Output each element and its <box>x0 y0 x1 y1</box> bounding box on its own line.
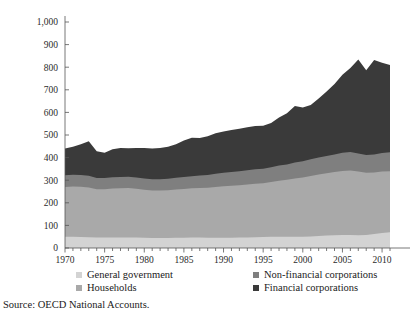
y-tick-label: 800 <box>44 63 59 73</box>
legend-swatch-general-government <box>76 272 82 278</box>
stacked-area-chart: 01002003004005006007008009001,000 197019… <box>0 0 415 270</box>
y-tick-label: 400 <box>44 153 59 163</box>
chart-legend: General government Households Non-financ… <box>0 268 415 298</box>
x-axis-ticks <box>65 248 390 253</box>
legend-item-households: Households <box>76 281 173 294</box>
y-tick-label: 700 <box>44 85 59 95</box>
legend-item-non-financial-corporations: Non-financial corporations <box>253 268 377 281</box>
x-tick-label: 1975 <box>95 255 114 265</box>
y-tick-label: 500 <box>44 130 59 140</box>
y-tick-label: 100 <box>44 221 59 231</box>
legend-swatch-households <box>76 285 82 291</box>
y-tick-label: 0 <box>53 243 58 253</box>
legend-column-left: General government Households <box>76 268 173 294</box>
x-tick-label: 1985 <box>174 255 193 265</box>
x-tick-label: 1990 <box>214 255 233 265</box>
x-tick-label: 2005 <box>333 255 352 265</box>
figure-container: 01002003004005006007008009001,000 197019… <box>0 0 415 321</box>
x-tick-label: 1970 <box>56 255 75 265</box>
source-note: Source: OECD National Accounts. <box>3 299 149 310</box>
legend-label-non-financial-corporations: Non-financial corporations <box>264 268 377 281</box>
x-tick-label: 1980 <box>135 255 154 265</box>
legend-item-financial-corporations: Financial corporations <box>253 281 377 294</box>
x-axis-tick-labels: 197019751980198519901995200020052010 <box>56 255 392 265</box>
x-tick-label: 2010 <box>373 255 392 265</box>
legend-swatch-non-financial-corporations <box>253 272 259 278</box>
legend-swatch-financial-corporations <box>253 285 259 291</box>
y-axis-tick-labels: 01002003004005006007008009001,000 <box>37 17 59 253</box>
legend-column-right: Non-financial corporations Financial cor… <box>253 268 377 294</box>
y-tick-label: 200 <box>44 198 59 208</box>
x-tick-label: 2000 <box>293 255 312 265</box>
y-tick-label: 900 <box>44 40 59 50</box>
y-tick-label: 300 <box>44 176 59 186</box>
x-tick-label: 1995 <box>254 255 273 265</box>
legend-item-general-government: General government <box>76 268 173 281</box>
legend-label-households: Households <box>87 281 137 294</box>
y-tick-label: 1,000 <box>37 17 59 27</box>
legend-label-financial-corporations: Financial corporations <box>264 281 358 294</box>
chart-plot-areas <box>65 60 390 248</box>
legend-label-general-government: General government <box>87 268 173 281</box>
y-tick-label: 600 <box>44 108 59 118</box>
